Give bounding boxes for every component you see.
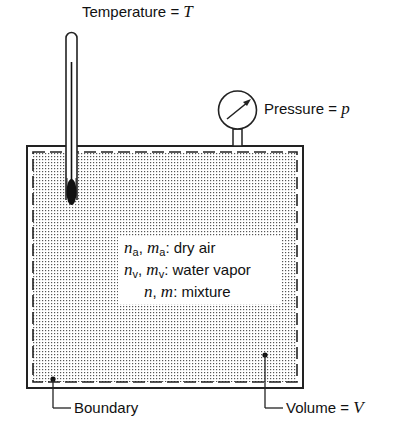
legend-text: : dry air (165, 239, 215, 256)
diagram-canvas (0, 0, 404, 425)
equals-sign: = (170, 3, 179, 20)
equals-sign: = (328, 100, 337, 117)
thermometer-icon (66, 33, 77, 206)
moles-symbol: n (124, 260, 133, 279)
equals-sign: = (340, 399, 349, 416)
legend-text: : mixture (173, 283, 231, 300)
moles-symbol: n (144, 282, 153, 301)
mass-symbol: m (161, 282, 173, 301)
subscript: a (133, 246, 139, 258)
volume-text: Volume (286, 399, 336, 416)
temperature-text: Temperature (82, 3, 166, 20)
subscript: v (133, 268, 139, 280)
temperature-label: Temperature = T (82, 3, 193, 21)
legend-row-dry-air: na, ma: dry air (122, 239, 277, 261)
legend-row-mixture: n, m: mixture (122, 283, 277, 301)
mass-symbol: m (147, 238, 159, 257)
pressure-text: Pressure (264, 100, 324, 117)
pressure-label: Pressure = p (264, 100, 350, 118)
volume-symbol: V (353, 398, 363, 417)
legend-text: : water vapor (164, 261, 251, 278)
temperature-symbol: T (183, 2, 192, 21)
boundary-text: Boundary (74, 399, 138, 416)
legend-row-water-vapor: nv, mv: water vapor (122, 261, 277, 283)
volume-label: Volume = V (286, 399, 364, 417)
moles-symbol: n (124, 238, 133, 257)
boundary-label: Boundary (74, 399, 138, 417)
pressure-symbol: p (341, 99, 350, 118)
mass-symbol: m (146, 260, 158, 279)
species-legend: na, ma: dry air nv, mv: water vapor n, m… (118, 236, 281, 304)
pressure-gauge-icon (219, 91, 257, 146)
